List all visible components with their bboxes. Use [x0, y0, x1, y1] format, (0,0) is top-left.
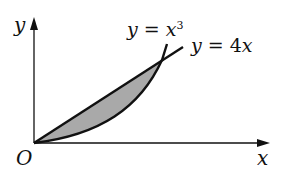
curve-label-cubic: y = x3 — [127, 20, 183, 39]
cubic-label-eq: = — [144, 18, 160, 40]
y-axis-label: y — [14, 15, 25, 35]
y-axis-arrow-icon — [30, 17, 38, 30]
x-axis-label: x — [257, 148, 268, 168]
cubic-label-exponent: 3 — [176, 19, 183, 32]
origin-label: O — [16, 148, 32, 168]
curve-y-x-cubed — [34, 44, 167, 143]
curve-label-line: y = 4x — [191, 36, 253, 55]
line-label-lhs: y — [191, 34, 202, 56]
cubic-label-lhs: y — [127, 18, 138, 40]
cubic-label-rhs: x — [166, 18, 177, 40]
line-label-rhs: 4x — [230, 34, 253, 56]
line-label-eq: = — [208, 34, 224, 56]
